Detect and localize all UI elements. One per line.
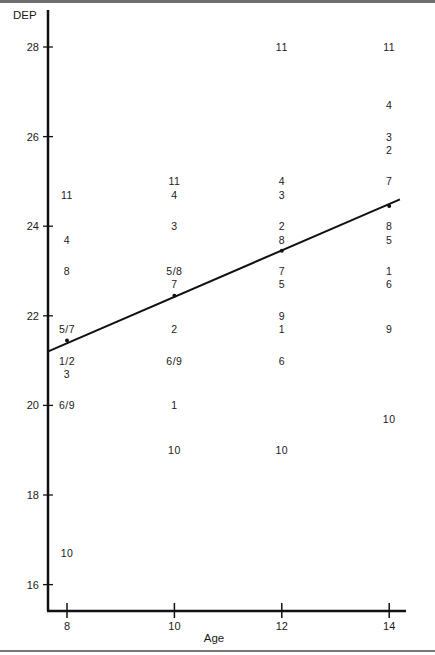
data-point-label: 1/2	[59, 355, 75, 367]
data-point-label: 3	[386, 131, 392, 143]
data-point-label: 10	[61, 547, 74, 559]
x-tick-label: 10	[168, 620, 180, 632]
data-point-label: 6	[386, 278, 392, 290]
data-point-label: 6/9	[59, 399, 75, 411]
data-point-label: 5/8	[166, 265, 182, 277]
data-point-label: 8	[279, 234, 285, 246]
x-tick-label: 14	[383, 620, 395, 632]
x-tick-label: 8	[64, 620, 70, 632]
y-tick-label: 26	[27, 131, 39, 143]
data-point-label: 6	[279, 355, 285, 367]
axes	[43, 10, 406, 618]
data-point-label: 9	[279, 310, 285, 322]
data-point-label: 1	[171, 399, 177, 411]
data-point-label: 1	[279, 323, 285, 335]
data-point-label: 7	[279, 265, 285, 277]
data-point-label: 5	[386, 234, 392, 246]
data-point-label: 8	[386, 220, 392, 232]
data-point-label: 6/9	[166, 355, 182, 367]
data-point-label: 9	[386, 323, 392, 335]
data-point-label: 2	[279, 220, 285, 232]
data-point-label: 4	[171, 189, 177, 201]
data-point-label: 11	[383, 41, 395, 53]
x-axis-title: Age	[204, 632, 224, 644]
fit-point-marker	[387, 204, 391, 208]
data-point-label: 10	[275, 444, 288, 456]
fit-point-marker	[172, 294, 176, 298]
x-tick-label: 12	[276, 620, 288, 632]
data-point-label: 10	[383, 413, 396, 425]
data-point-label: 5	[279, 278, 285, 290]
data-point-label: 7	[171, 278, 177, 290]
data-point-label: 11	[61, 189, 73, 201]
y-tick-label: 18	[27, 489, 39, 501]
data-point-label: 8	[64, 265, 70, 277]
data-point-label: 10	[168, 444, 181, 456]
data-point-label: 2	[171, 323, 177, 335]
y-tick-label: 16	[27, 579, 39, 591]
data-point-label: 4	[386, 99, 392, 111]
fit-point-marker	[65, 338, 69, 342]
data-point-label: 7	[386, 175, 392, 187]
y-tick-label: 24	[27, 220, 39, 232]
data-point-label: 11	[168, 175, 180, 187]
data-point-label: 11	[276, 41, 288, 53]
fit-line	[48, 199, 400, 351]
data-point-label: 3	[64, 368, 70, 380]
data-point-label: 1	[386, 265, 392, 277]
y-tick-label: 20	[27, 399, 39, 411]
y-tick-label: 28	[27, 41, 39, 53]
y-axis-title: DEP	[13, 9, 37, 21]
fit-point-marker	[280, 249, 284, 253]
data-point-label: 4	[279, 175, 285, 187]
data-point-label: 4	[64, 234, 70, 246]
regression-line	[48, 199, 400, 351]
data-point-label: 5/7	[59, 323, 75, 335]
y-tick-label: 22	[27, 310, 39, 322]
data-point-label: 3	[279, 189, 285, 201]
data-point-label: 2	[386, 144, 392, 156]
data-point-label: 3	[171, 220, 177, 232]
